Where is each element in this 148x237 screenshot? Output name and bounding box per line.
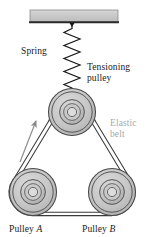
physics-diagram-tensioning-pulley: Spring Tensioning pulley Elastic belt Pu…: [0, 0, 148, 237]
pulley-b: [89, 169, 136, 216]
ceiling-block: [30, 10, 118, 22]
pulley-a: [10, 169, 57, 216]
pulley-b-label-letter: B: [109, 224, 115, 234]
elastic-belt-label-line2: belt: [110, 129, 137, 140]
tensioning-pulley-label-line2: pulley: [87, 73, 130, 84]
tensioning-pulley-label: Tensioning pulley: [87, 62, 130, 83]
ceiling-support: [30, 10, 118, 27]
pulley-b-label-word: Pulley: [82, 224, 107, 234]
pulley-a-label: Pulley A: [9, 224, 42, 235]
spring-coil: [64, 29, 80, 89]
pulley-a-label-word: Pulley: [9, 224, 34, 234]
elastic-belt-label: Elastic belt: [110, 118, 137, 139]
spring-label: Spring: [21, 46, 47, 57]
pulley-b-label: Pulley B: [82, 224, 115, 235]
tensioning-pulley-label-line1: Tensioning: [87, 62, 130, 73]
tensioning-pulley: [49, 89, 96, 136]
elastic-belt-label-line1: Elastic: [110, 118, 137, 129]
pulley-a-label-letter: A: [36, 224, 42, 234]
